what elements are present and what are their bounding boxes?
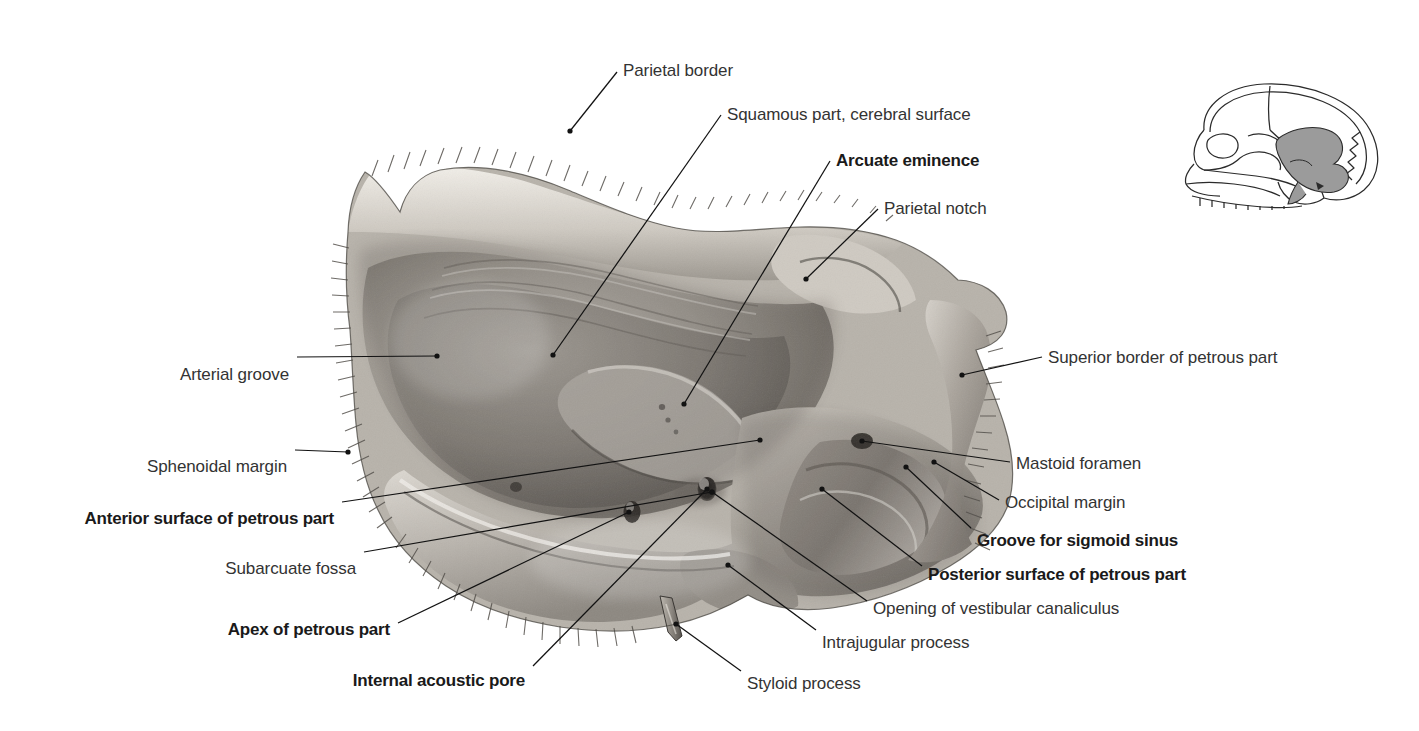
label-posterior-surface-petrous: Posterior surface of petrous part	[928, 565, 1186, 585]
bone-body	[330, 150, 1030, 650]
figure-canvas: Parietal borderSquamous part, cerebral s…	[0, 0, 1419, 731]
label-opening-vestibular-canaliculus: Opening of vestibular canaliculus	[873, 599, 1119, 619]
label-sphenoidal-margin: Sphenoidal margin	[147, 457, 287, 477]
label-apex-petrous-part: Apex of petrous part	[228, 620, 390, 640]
orientation-skull-thumbnail	[1148, 78, 1393, 223]
label-subarcuate-fossa: Subarcuate fossa	[225, 559, 356, 579]
label-styloid-process: Styloid process	[747, 674, 861, 694]
label-groove-sigmoid-sinus: Groove for sigmoid sinus	[977, 531, 1178, 551]
label-occipital-margin: Occipital margin	[1005, 493, 1125, 513]
label-arcuate-eminence: Arcuate eminence	[836, 151, 979, 171]
label-squamous-part: Squamous part, cerebral surface	[727, 105, 971, 125]
label-superior-border-petrous: Superior border of petrous part	[1048, 348, 1277, 368]
label-parietal-notch: Parietal notch	[884, 199, 987, 219]
label-anterior-surface-petrous: Anterior surface of petrous part	[84, 509, 334, 529]
temporal-bone-highlight	[1276, 127, 1349, 204]
label-intrajugular-process: Intrajugular process	[822, 633, 969, 653]
label-mastoid-foramen: Mastoid foramen	[1016, 454, 1141, 474]
label-parietal-border: Parietal border	[623, 61, 733, 81]
label-arterial-groove: Arterial groove	[180, 365, 289, 385]
label-internal-acoustic-pore: Internal acoustic pore	[353, 671, 525, 691]
